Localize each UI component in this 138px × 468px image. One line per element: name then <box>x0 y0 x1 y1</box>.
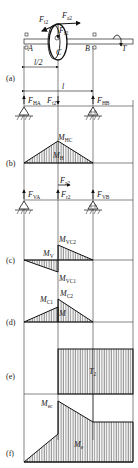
label-mvc2: MVC2 <box>58 235 76 245</box>
label-mc1: MC1 <box>39 295 53 305</box>
pin-support-icon <box>19 201 29 209</box>
bearing-a-icon <box>25 33 28 36</box>
panel-a-shaft: Ft2 Fa2 Fr2 A B C T l/2 l (a) <box>6 11 133 91</box>
label-ft2: Ft2 <box>38 15 48 25</box>
label-fva: FVA <box>27 190 40 200</box>
label-fvb: FVB <box>96 190 110 200</box>
label-mvc1: MVC1 <box>58 274 76 284</box>
panel-e-torque: T2 (e) <box>6 349 133 394</box>
label-b: B <box>85 44 90 53</box>
panel-label-d: (d) <box>6 318 16 327</box>
label-c: C <box>56 48 62 57</box>
label-t: T <box>122 44 127 53</box>
panel-c-vertical-moment: MVC2 MV MVC1 (c) <box>6 235 133 284</box>
label-fa2-v: Fa2 <box>59 176 70 186</box>
panel-d-combined-moment: MC2 MC1 M (d) <box>6 289 133 327</box>
label-ft2-h: Ft2 <box>46 96 56 106</box>
label-a: A <box>27 44 33 53</box>
dim-span: l <box>62 82 65 91</box>
panel-label-e: (e) <box>6 372 15 381</box>
vertical-plane-loads: Fa2 FVA Fr2 FVB <box>15 176 133 214</box>
label-mhc: MHC <box>57 133 73 143</box>
label-fa2: Fa2 <box>61 11 72 21</box>
label-mc2: MC2 <box>59 289 73 299</box>
shaft <box>24 39 133 44</box>
panel-label-c: (c) <box>6 256 15 265</box>
roller-support-icon <box>88 107 98 115</box>
panel-b-horizontal-moment: MHC MH (b) <box>6 133 133 168</box>
label-fr2: Fr2 <box>58 26 69 36</box>
shaft-load-diagram: Ft2 Fa2 Fr2 A B C T l/2 l (a) FHA Ft2 FH… <box>0 0 138 468</box>
torque-icon <box>113 35 121 39</box>
panel-label-a: (a) <box>6 74 15 83</box>
label-m: M <box>58 309 67 318</box>
label-fhb: FHB <box>96 96 110 106</box>
panel-label-b: (b) <box>6 159 16 168</box>
panel-f-equivalent-moment: Mec Me (f) <box>6 394 133 462</box>
panel-label-f: (f) <box>6 449 14 458</box>
roller-support-icon <box>88 201 98 209</box>
dim-half-span: l/2 <box>34 58 42 67</box>
pin-support-icon <box>19 107 29 115</box>
horizontal-plane-loads: FHA Ft2 FHB <box>15 96 133 120</box>
bearing-b-icon <box>93 46 96 49</box>
label-mec: Mec <box>40 399 53 409</box>
axial-force-arrow-icon <box>58 23 80 24</box>
bearing-b-icon <box>93 33 96 36</box>
label-fr2-v: Fr2 <box>60 190 71 200</box>
label-mv: MV <box>42 249 54 259</box>
label-fha: FHA <box>27 96 41 106</box>
